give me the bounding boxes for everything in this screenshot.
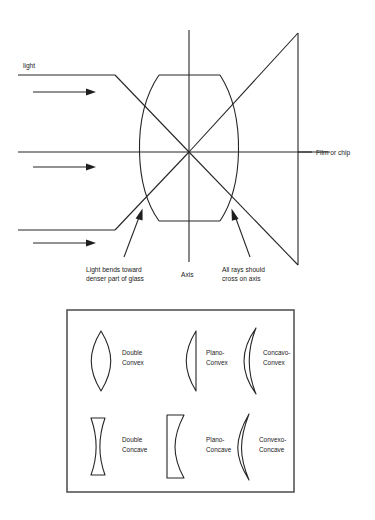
lens-types-panel-border xyxy=(67,310,294,492)
refracted-ray-bottom-outgoing xyxy=(189,33,298,152)
lens-shape-double-convex xyxy=(91,331,111,391)
lens-shape-plano-convex xyxy=(186,331,196,391)
lens-types-panel: Double Convex Plano- Convex Concavo- Con… xyxy=(67,310,294,492)
callout-arrow-left xyxy=(124,209,143,258)
label-double-concave-line2: Concave xyxy=(122,446,148,453)
label-concavo-convex-line1: Concavo- xyxy=(263,349,290,356)
film-or-chip-label: Film or chip xyxy=(316,149,350,157)
refracted-ray-bottom-incoming xyxy=(115,152,189,230)
lens-left-surface xyxy=(139,75,159,221)
label-plano-convex-line1: Plano- xyxy=(206,349,224,356)
label-convexo-concave-line2: Concave xyxy=(259,446,285,453)
light-label: light xyxy=(23,62,35,70)
ray-direction-arrow-1 xyxy=(33,88,96,95)
lens-shape-plano-concave xyxy=(167,415,184,478)
label-plano-concave-line1: Plano- xyxy=(206,436,224,443)
optics-figure: light Film or chip Axis Light bends towa… xyxy=(0,0,375,520)
axis-label: Axis xyxy=(181,271,194,278)
callout-arrow-right xyxy=(232,209,251,258)
bend-note-line1: Light bends toward xyxy=(86,266,142,274)
lens-shape-concavo-convex xyxy=(244,328,256,394)
refracted-ray-top-outgoing xyxy=(189,152,298,265)
label-convexo-concave-line1: Convexo- xyxy=(259,436,286,443)
lens-right-surface xyxy=(220,75,239,221)
lens-shape-convexo-concave xyxy=(238,414,249,480)
ray-direction-arrow-3 xyxy=(33,239,96,246)
label-double-convex-line2: Convex xyxy=(122,359,144,366)
bend-note-line2: denser part of glass xyxy=(86,275,145,283)
label-concavo-convex-line2: Convex xyxy=(263,359,285,366)
label-plano-concave-line2: Concave xyxy=(206,446,232,453)
lens-ray-diagram: light Film or chip Axis Light bends towa… xyxy=(18,30,350,283)
label-plano-convex-line2: Convex xyxy=(206,359,228,366)
ray-direction-arrow-2 xyxy=(33,163,96,170)
label-double-convex-line1: Double xyxy=(122,349,143,356)
lens-shape-double-concave xyxy=(91,418,105,475)
label-double-concave-line1: Double xyxy=(122,436,143,443)
cross-note-line1: All rays should xyxy=(222,266,265,274)
cross-note-line2: cross on axis xyxy=(222,275,261,282)
